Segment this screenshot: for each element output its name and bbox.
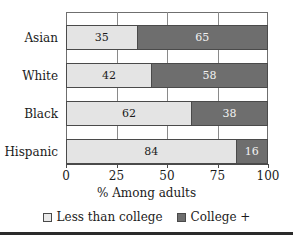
bottom-divider bbox=[0, 232, 293, 235]
bar-segment-less-than-college: 42 bbox=[66, 63, 151, 88]
x-tick-label-75: 75 bbox=[210, 169, 225, 183]
x-tick-label-0: 0 bbox=[62, 169, 70, 183]
category-axis-labels: AsianWhiteBlackHispanic bbox=[0, 12, 62, 164]
x-axis-title: % Among adults bbox=[0, 186, 293, 200]
chart-legend: Less than college College + bbox=[0, 210, 293, 224]
x-tick-0 bbox=[66, 164, 67, 168]
x-tick-50 bbox=[167, 164, 168, 168]
bar-segment-less-than-college: 35 bbox=[66, 25, 137, 50]
x-tick-label-50: 50 bbox=[159, 169, 174, 183]
category-label-asian: Asian bbox=[24, 25, 58, 50]
stacked-bar-chart-figure: AsianWhiteBlackHispanic 3565425862388416… bbox=[0, 0, 293, 239]
bar-segment-college-plus: 58 bbox=[151, 63, 268, 88]
bar-row: 4258 bbox=[66, 63, 268, 88]
x-tick-75 bbox=[218, 164, 219, 168]
legend-item-less-than-college: Less than college bbox=[43, 210, 163, 224]
bar-segment-less-than-college: 84 bbox=[66, 139, 236, 164]
bar-segment-college-plus: 38 bbox=[191, 101, 268, 126]
legend-label-less-than-college: Less than college bbox=[57, 210, 163, 224]
legend-label-college-plus: College + bbox=[191, 210, 251, 224]
bar-row: 8416 bbox=[66, 139, 268, 164]
bar-segment-college-plus: 16 bbox=[236, 139, 268, 164]
x-tick-label-100: 100 bbox=[257, 169, 280, 183]
bar-row: 6238 bbox=[66, 101, 268, 126]
category-label-white: White bbox=[22, 63, 58, 88]
x-tick-25 bbox=[117, 164, 118, 168]
legend-swatch-light-icon bbox=[43, 213, 52, 222]
legend-item-college-plus: College + bbox=[177, 210, 251, 224]
bar-segment-less-than-college: 62 bbox=[66, 101, 191, 126]
bar-row: 3565 bbox=[66, 25, 268, 50]
category-label-black: Black bbox=[24, 101, 58, 126]
category-label-hispanic: Hispanic bbox=[4, 139, 58, 164]
x-tick-label-25: 25 bbox=[109, 169, 124, 183]
legend-swatch-dark-icon bbox=[177, 213, 186, 222]
x-tick-100 bbox=[268, 164, 269, 168]
bar-rows: 3565425862388416 bbox=[66, 12, 268, 164]
bar-segment-college-plus: 65 bbox=[137, 25, 268, 50]
plot-area: 3565425862388416 bbox=[66, 12, 268, 164]
